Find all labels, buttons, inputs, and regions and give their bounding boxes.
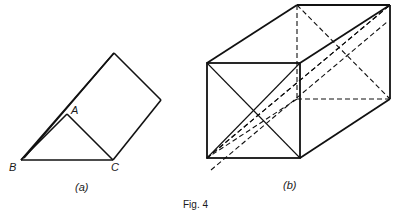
vertex-label-C: C	[111, 161, 119, 173]
vertex-label-B: B	[9, 161, 16, 173]
panel-label-a: (a)	[75, 181, 88, 193]
vertex-label-A: A	[71, 104, 78, 116]
figure-caption: Fig. 4	[183, 199, 208, 210]
panel-label-b: (b)	[283, 179, 296, 191]
